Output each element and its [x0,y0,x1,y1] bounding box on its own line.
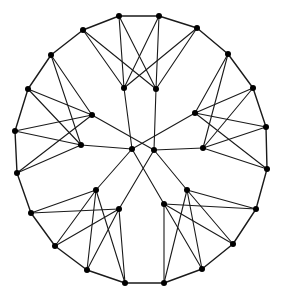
node-center-X [129,146,135,152]
node-inner-j [184,187,190,193]
edge-a-C [124,28,197,88]
node-inner-g [161,201,167,207]
edge-R-S [28,55,51,89]
edge-a-A [119,16,124,88]
edge-f-M [87,190,96,270]
edge-X-g [132,149,164,204]
node-outer-I [230,241,236,247]
edge-i-O [31,209,119,213]
edge-h-G [203,148,267,169]
node-inner-a [121,85,127,91]
edge-d-D [195,54,228,113]
node-inner-f [93,187,99,193]
edge-b-T [83,30,156,89]
node-outer-L [122,280,128,286]
edge-X-d [132,113,195,149]
graph-diagram [0,0,281,296]
edge-e-Q [15,131,81,145]
edge-h-D [203,54,228,148]
edge-S-T [51,30,83,55]
edge-j-I [187,190,233,244]
edge-b-B [156,16,159,89]
edge-e-P [17,145,81,173]
node-outer-O [28,210,34,216]
node-outer-C [194,25,200,31]
edge-B-C [159,16,197,28]
node-outer-T [80,27,86,33]
node-inner-h [200,145,206,151]
node-outer-G [264,166,270,172]
edge-X-f [96,149,132,190]
node-inner-e [78,142,84,148]
edge-J-K [164,269,202,283]
node-outer-N [52,243,58,249]
node-outer-Q [12,128,18,134]
edge-g-I [164,204,233,244]
edge-Y-h [154,148,203,150]
edge-b-A [119,16,156,89]
edge-H-I [233,209,256,244]
edge-M-N [55,246,87,270]
node-outer-D [225,51,231,57]
edge-X-a [124,88,132,149]
node-outer-H [253,206,259,212]
edge-L-M [87,270,125,283]
node-inner-i [116,206,122,212]
edge-E-F [253,88,266,127]
edge-c-Q [15,115,92,131]
node-outer-F [263,124,269,130]
edge-O-P [17,173,31,213]
node-outer-P [14,170,20,176]
edge-e-R [28,89,81,145]
graph-svg [0,0,281,296]
edge-Y-c [92,115,154,150]
node-outer-R [25,86,31,92]
node-inner-d [192,110,198,116]
node-inner-b [153,86,159,92]
edge-Y-b [154,89,156,150]
node-outer-K [161,280,167,286]
edge-G-H [256,169,267,209]
edge-d-E [195,88,253,113]
node-center-Y [151,147,157,153]
edge-Q-R [15,89,28,131]
edge-c-R [28,89,92,115]
edge-f-N [55,190,96,246]
edge-f-O [31,190,96,213]
edge-I-J [202,244,233,269]
edge-N-O [31,213,55,246]
edge-c-S [51,55,92,115]
edge-X-e [81,145,132,149]
node-inner-c [89,112,95,118]
edge-D-E [228,54,253,88]
edge-f-L [96,190,125,283]
edge-b-C [156,28,197,89]
edge-C-D [197,28,228,54]
node-outer-S [48,52,54,58]
node-outer-M [84,267,90,273]
edge-Y-i [119,150,154,209]
node-outer-A [116,13,122,19]
node-outer-J [199,266,205,272]
edge-P-Q [15,131,17,173]
node-outer-B [156,13,162,19]
node-outer-E [250,85,256,91]
edge-T-A [83,16,119,30]
edge-a-T [83,30,124,88]
edge-Y-j [154,150,187,190]
edge-d-G [195,113,267,169]
edge-F-G [266,127,267,169]
